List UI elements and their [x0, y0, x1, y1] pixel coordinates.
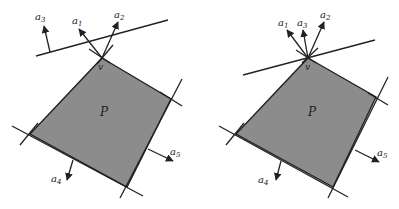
label-a3-left: a3 — [35, 11, 46, 24]
vector-a4-left — [67, 160, 73, 180]
vector-a5-right — [355, 150, 379, 162]
label-a1-left: a1 — [72, 15, 82, 28]
right-figure: P v a1 a3 a2 a4 a5 — [219, 9, 388, 198]
polygon-label-right: P — [307, 105, 317, 119]
polygon-label-left: P — [99, 105, 109, 119]
vector-a3-left — [44, 26, 50, 52]
polygon-p-left — [30, 58, 171, 187]
label-a2-right: a2 — [320, 9, 331, 22]
diagram-canvas: P v a1 a2 a3 a4 a5 P v a1 a3 a2 a4 a5 — [0, 0, 399, 209]
label-a3-right: a3 — [297, 17, 308, 30]
constraint-line-a3 — [36, 20, 168, 56]
label-a5-left: a5 — [170, 146, 181, 159]
label-a4-right: a4 — [258, 174, 268, 187]
polygon-p-right — [236, 58, 376, 187]
left-figure: P v a1 a2 a3 a4 a5 — [12, 9, 182, 198]
vertex-label-right: v — [305, 62, 310, 72]
vertex-label-left: v — [98, 62, 103, 72]
vector-a4-right — [276, 161, 281, 180]
vector-a2-right — [308, 22, 324, 58]
label-a5-right: a5 — [377, 147, 388, 160]
vector-a2-left — [102, 22, 118, 58]
label-a2-left: a2 — [114, 9, 125, 22]
label-a1-right: a1 — [278, 17, 288, 30]
label-a4-left: a4 — [51, 173, 61, 186]
